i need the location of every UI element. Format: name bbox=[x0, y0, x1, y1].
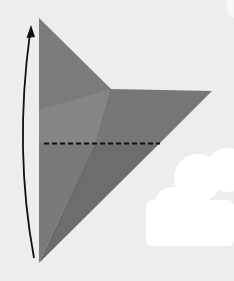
origami-diagram bbox=[0, 0, 234, 281]
